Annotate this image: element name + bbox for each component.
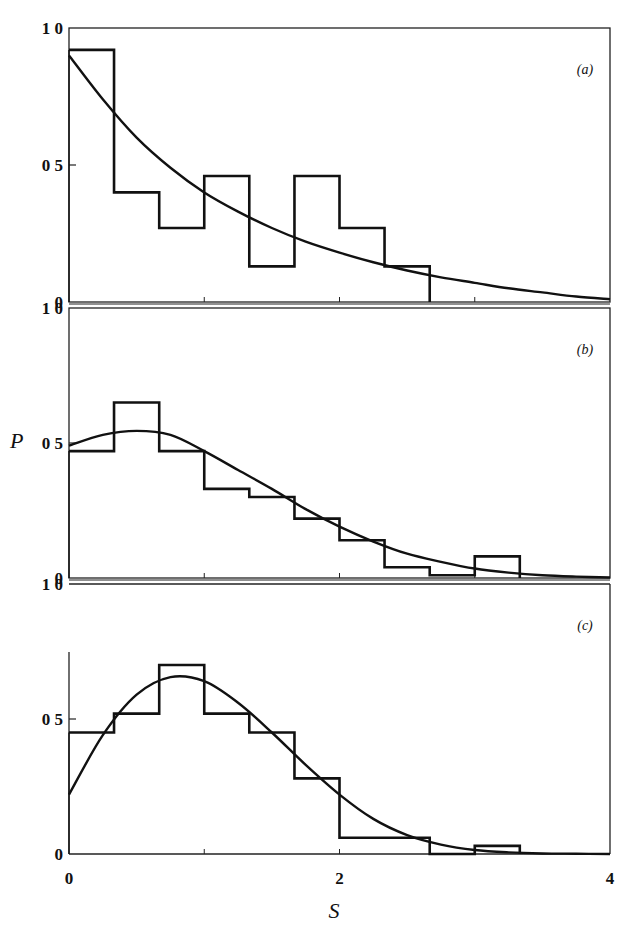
x-tick-label: 0	[65, 869, 74, 888]
fit-curve	[69, 431, 610, 578]
panels: 00 51 0(a)00 51 0(b)00 51 0(c)	[42, 19, 610, 864]
histogram-outline	[69, 50, 430, 302]
histogram-outline	[69, 403, 520, 579]
y-tick-label: 1 0	[42, 299, 63, 318]
y-tick-label: 1 0	[42, 19, 63, 38]
x-tick-label: 2	[335, 869, 344, 888]
x-axis-tick-labels: 024	[65, 869, 615, 888]
panel-label: (c)	[577, 618, 593, 634]
x-axis-title: S	[329, 898, 340, 923]
y-tick-label: 0	[55, 845, 64, 864]
panel-label: (b)	[577, 342, 594, 358]
y-tick-label: 0 5	[42, 434, 63, 453]
panel-c: 00 51 0(c)	[42, 575, 610, 864]
panel-b: 00 51 0(b)	[42, 299, 610, 588]
panel-frame	[69, 28, 610, 302]
figure: 00 51 0(a)00 51 0(b)00 51 0(c) P S 024	[0, 0, 626, 933]
panel-label: (a)	[577, 62, 594, 78]
y-tick-label: 0 5	[42, 156, 63, 175]
panel-a: 00 51 0(a)	[42, 19, 610, 312]
x-tick-label: 4	[606, 869, 615, 888]
y-axis-title: P	[9, 428, 23, 453]
y-tick-label: 1 0	[42, 575, 63, 594]
y-tick-label: 0 5	[42, 710, 63, 729]
